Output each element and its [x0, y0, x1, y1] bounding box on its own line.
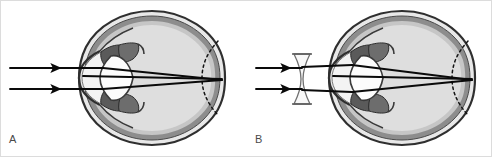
panel-label-a: A [9, 134, 16, 145]
concave-corrective-lens [292, 54, 312, 104]
figure-canvas [0, 0, 492, 157]
panel-b [256, 11, 475, 145]
panel-a [10, 11, 225, 145]
panel-label-b: B [255, 134, 262, 145]
myopia-correction-figure: A B [0, 0, 492, 157]
